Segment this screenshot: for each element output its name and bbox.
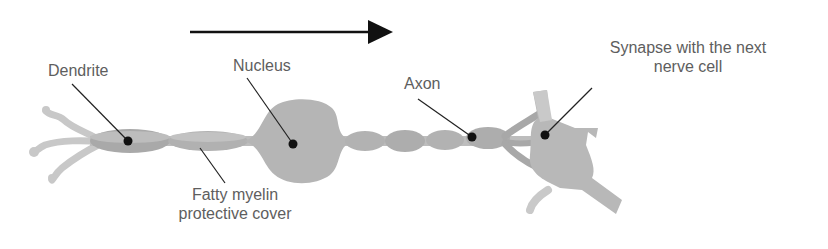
synapse-label: Synapse with the next nerve cell <box>578 38 798 76</box>
nucleus-label: Nucleus <box>233 56 291 75</box>
cell-body <box>245 99 352 183</box>
myelin-label-line1: Fatty myelin <box>150 185 320 204</box>
nucleus-dot <box>289 140 298 149</box>
axon-label: Axon <box>404 74 440 93</box>
next-nerve-cell <box>530 90 622 214</box>
myelin-sheath-left <box>90 129 248 153</box>
dendrite-branches <box>29 106 100 182</box>
synapse-label-line1: Synapse with the next <box>578 38 798 57</box>
myelin-label: Fatty myelin protective cover <box>150 185 320 223</box>
synapse-label-line2: nerve cell <box>578 57 798 76</box>
synapse-dot <box>541 131 550 140</box>
axon-dot <box>468 133 477 142</box>
myelin-label-line2: protective cover <box>150 204 320 223</box>
dendrite-label: Dendrite <box>48 61 108 80</box>
myelin-sheath-right <box>345 127 510 152</box>
direction-arrow <box>190 20 393 44</box>
dendrite-dot <box>124 137 133 146</box>
